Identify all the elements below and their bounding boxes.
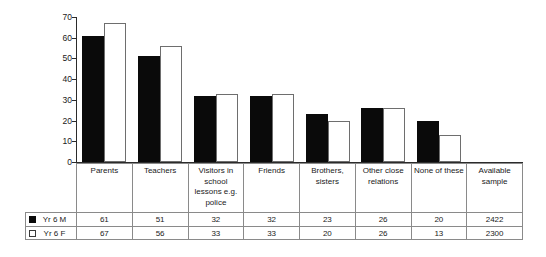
table-data-rows: 615132322326202422675633332026132300 — [76, 212, 523, 240]
table-data-cell: 23 — [300, 213, 356, 226]
bar-yr6f — [104, 23, 126, 162]
bar-group — [300, 17, 356, 162]
y-tick-label: 20 — [63, 117, 72, 126]
table-data-cell: 33 — [244, 227, 300, 239]
table-header-cell-line: Brothers, — [300, 166, 355, 177]
y-axis-tick-labels: 010203040506070 — [52, 17, 72, 163]
bar-yr6m — [82, 36, 104, 162]
bar-yr6m — [194, 96, 216, 162]
table-data-cell: 20 — [300, 227, 356, 239]
legend-row: Yr 6 F — [26, 226, 76, 240]
table-header-cell-line: Available — [467, 166, 522, 177]
bar-yr6m — [417, 121, 439, 162]
table-data-cell: 2422 — [467, 213, 522, 226]
legend-row: Yr 6 M — [26, 213, 76, 226]
y-tick-label: 30 — [63, 96, 72, 105]
bar-yr6m — [138, 56, 160, 162]
table-header-cell-line: sisters — [300, 177, 355, 188]
table-data-cell: 33 — [189, 227, 245, 239]
bar-yr6m — [361, 108, 383, 162]
table-header-cell: Other closerelations — [356, 164, 412, 212]
table-header-cell-line: lessons e.g. — [189, 187, 244, 198]
bar-yr6m — [306, 114, 328, 162]
bar-yr6f — [328, 121, 350, 162]
table-header-cell: Friends — [244, 164, 300, 212]
bar-group — [76, 17, 132, 162]
bar-chart-figure: 010203040506070 ParentsTeachersVisitors … — [0, 0, 546, 257]
table-header-cell: Parents — [77, 164, 133, 212]
bar-yr6m — [250, 96, 272, 162]
data-table: ParentsTeachersVisitors inschoollessons … — [76, 163, 523, 240]
table-data-cell: 26 — [356, 213, 412, 226]
table-header-cell-line: sample — [467, 177, 522, 188]
table-header-cell-line: None of these — [412, 166, 467, 177]
legend: Yr 6 MYr 6 F — [25, 212, 76, 240]
y-tick-label: 70 — [63, 13, 72, 22]
table-data-cell: 26 — [356, 227, 412, 239]
table-header-cell-line: police — [189, 198, 244, 209]
bar-group — [244, 17, 300, 162]
table-data-cell: 61 — [77, 213, 133, 226]
table-header-cell-line: Teachers — [133, 166, 188, 177]
table-data-cell: 32 — [244, 213, 300, 226]
y-tick-label: 60 — [63, 34, 72, 43]
table-header-cell: Visitors inschoollessons e.g.police — [189, 164, 245, 212]
table-header-cell-line: Visitors in — [189, 166, 244, 177]
table-data-cell: 67 — [77, 227, 133, 239]
bar-group — [467, 17, 523, 162]
bar-yr6f — [272, 94, 294, 162]
y-tick-label: 40 — [63, 75, 72, 84]
bar-group — [188, 17, 244, 162]
table-data-cell: 56 — [133, 227, 189, 239]
table-data-cell: 51 — [133, 213, 189, 226]
bar-group — [355, 17, 411, 162]
y-tick-label: 50 — [63, 54, 72, 63]
bar-yr6f — [383, 108, 405, 162]
bar-group — [132, 17, 188, 162]
bar-yr6f — [216, 94, 238, 162]
legend-swatch-filled-icon — [29, 216, 36, 223]
table-header-cell: None of these — [412, 164, 468, 212]
table-row: 675633332026132300 — [76, 226, 523, 240]
legend-swatch-hollow-icon — [29, 230, 36, 237]
table-data-cell: 32 — [189, 213, 245, 226]
table-header-cell-line: Other close — [356, 166, 411, 177]
table-header-cell: Availablesample — [467, 164, 522, 212]
table-header-cell-line: school — [189, 177, 244, 188]
table-header-cell-line: Friends — [244, 166, 299, 177]
plot-area — [76, 17, 523, 163]
table-header-cell-line: Parents — [77, 166, 132, 177]
y-tick-label: 10 — [63, 137, 72, 146]
table-header-cell: Brothers,sisters — [300, 164, 356, 212]
table-data-cell: 13 — [412, 227, 468, 239]
table-data-cell: 20 — [412, 213, 468, 226]
table-header-row: ParentsTeachersVisitors inschoollessons … — [76, 163, 523, 212]
table-data-cell: 2300 — [467, 227, 522, 239]
table-header-cell: Teachers — [133, 164, 189, 212]
legend-label: Yr 6 M — [36, 216, 76, 224]
bar-group — [411, 17, 467, 162]
bar-yr6f — [439, 135, 461, 162]
table-header-cell-line: relations — [356, 177, 411, 188]
bar-yr6f — [160, 46, 182, 162]
table-row: 615132322326202422 — [76, 212, 523, 226]
legend-label: Yr 6 F — [36, 230, 76, 238]
